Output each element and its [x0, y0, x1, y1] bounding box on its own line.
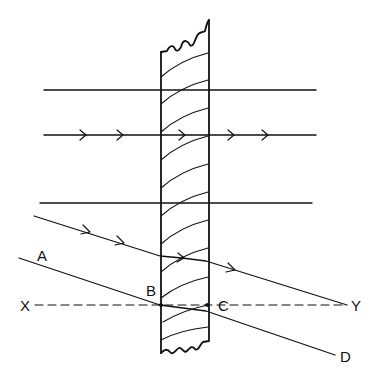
line-abcd — [19, 258, 335, 355]
label-a: A — [37, 248, 47, 263]
label-d: D — [340, 349, 351, 364]
slab-bottom-break — [161, 341, 209, 353]
label-y: Y — [351, 298, 361, 313]
slab-curved-lines — [161, 53, 208, 340]
label-b: B — [146, 283, 156, 298]
label-c: C — [218, 298, 229, 313]
point-b — [159, 303, 162, 306]
diagram-canvas: A B C D X Y — [0, 0, 382, 381]
slab-top-break — [161, 20, 209, 52]
oblique-ray — [34, 216, 347, 305]
ray-diagram — [0, 0, 382, 381]
point-c — [206, 304, 209, 307]
arrow-icons-oblique-ray — [81, 225, 235, 272]
label-x: X — [20, 298, 30, 313]
